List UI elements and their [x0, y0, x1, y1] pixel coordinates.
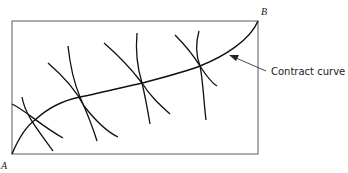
edgeworth-box-diagram: A B Contract curve	[0, 0, 348, 173]
origin-b-label: B	[261, 6, 267, 17]
arrowhead-icon	[229, 55, 239, 61]
origin-a-label: A	[0, 160, 8, 171]
edgeworth-box-frame	[12, 21, 258, 154]
contract-curve-pointer-line	[236, 58, 266, 71]
indifference-curve-a-2	[48, 63, 118, 137]
contract-curve-label: Contract curve	[271, 66, 345, 77]
indifference-curve-b-1	[22, 97, 53, 151]
indifference-curve-b-2	[68, 46, 97, 141]
indifference-curve-a-1	[12, 104, 63, 138]
contract-curve	[12, 21, 258, 154]
indifference-curve-a-4	[175, 35, 217, 86]
indifference-curve-b-4	[197, 31, 206, 120]
